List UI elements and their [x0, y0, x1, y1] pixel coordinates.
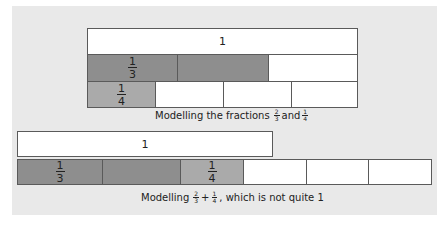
fig1-third-cell-1: 13 [88, 55, 178, 81]
fig2-whole-bar: 1 [17, 131, 273, 157]
fraction-one-quarter: 14 [208, 160, 217, 184]
whole-label: 1 [219, 35, 226, 48]
fig2-empty-cell-2 [307, 160, 369, 184]
caption-suffix: , which is not quite 1 [219, 192, 323, 203]
whole-label: 1 [142, 138, 149, 151]
fig1-caption: Modelling the fractions 23 and 14 [155, 107, 310, 123]
caption-text: Modelling [141, 192, 189, 203]
fig1-quarters-bar: 14 [87, 81, 358, 108]
caption-fraction-one-quarter: 14 [212, 191, 218, 204]
fig1-whole-bar: 1 [87, 28, 358, 55]
denominator: 4 [303, 116, 307, 122]
numerator: 1 [208, 160, 217, 172]
denominator: 3 [275, 116, 279, 122]
denominator: 4 [213, 198, 217, 204]
fraction-one-quarter: 14 [117, 83, 126, 107]
fig2-whole-cell: 1 [18, 132, 272, 156]
fig2-third-cell-2 [103, 160, 181, 184]
fig2-quarter-cell: 14 [181, 160, 244, 184]
denominator: 4 [209, 172, 216, 184]
caption-fraction-two-thirds: 23 [274, 109, 280, 122]
denominator: 3 [57, 172, 64, 184]
caption-fraction-one-quarter: 14 [302, 109, 308, 122]
fig1-quarter-cell-2 [156, 82, 224, 107]
fraction-one-third: 13 [128, 56, 137, 80]
fig2-caption: Modelling 23 + 14 , which is not quite 1 [141, 189, 324, 205]
denominator: 3 [129, 68, 136, 80]
caption-fraction-two-thirds: 23 [193, 191, 199, 204]
fig2-empty-cell-1 [244, 160, 307, 184]
numerator: 1 [128, 56, 137, 68]
numerator: 1 [117, 83, 126, 95]
caption-and: and [282, 110, 301, 121]
caption-text: Modelling the fractions [155, 110, 270, 121]
fig1-quarter-cell-3 [224, 82, 292, 107]
fig2-third-cell-1: 13 [18, 160, 103, 184]
denominator: 4 [118, 95, 125, 107]
fig1-third-cell-3 [269, 55, 357, 81]
fig1-quarter-cell-1: 14 [88, 82, 156, 107]
fraction-one-third: 13 [56, 160, 65, 184]
fig2-sum-bar: 13 14 [17, 159, 432, 185]
fig1-thirds-bar: 13 [87, 54, 358, 82]
fig1-whole-cell: 1 [88, 29, 357, 54]
denominator: 3 [194, 198, 198, 204]
caption-plus: + [201, 192, 209, 203]
numerator: 1 [56, 160, 65, 172]
fig1-quarter-cell-4 [292, 82, 357, 107]
fig1-third-cell-2 [178, 55, 269, 81]
fig2-empty-cell-3 [369, 160, 431, 184]
